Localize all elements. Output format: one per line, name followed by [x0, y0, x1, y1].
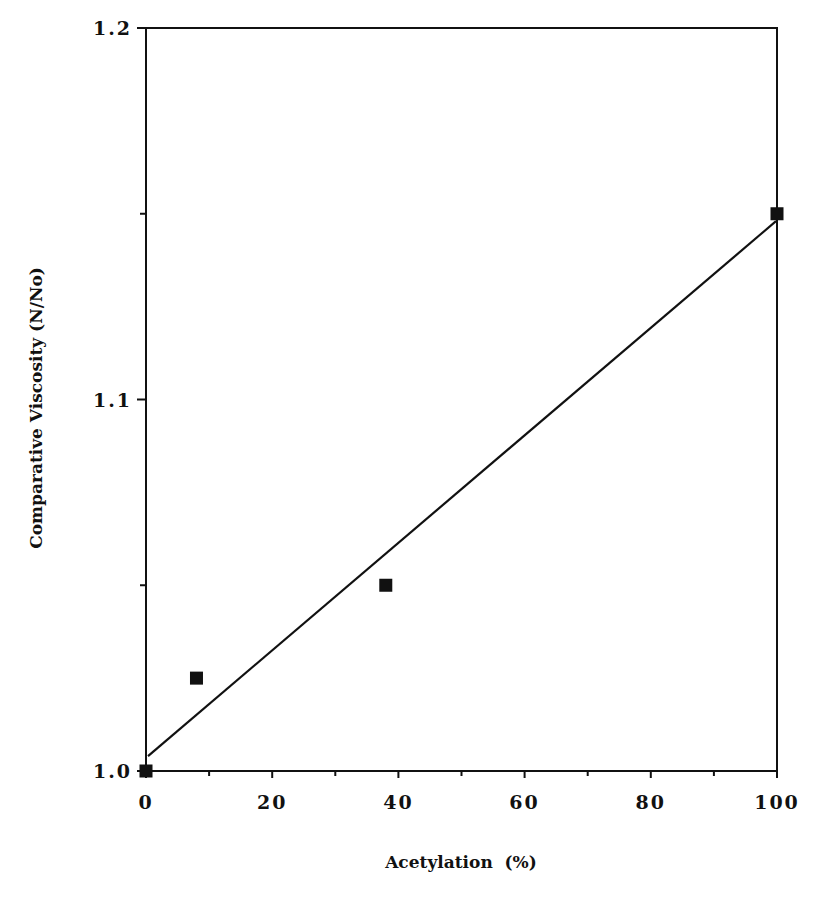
y-tick-label: 1.1	[93, 389, 132, 411]
x-tick-label: 100	[754, 791, 800, 813]
y-tick-label: 1.2	[93, 17, 132, 39]
x-axis-label: Acetylation (%)	[384, 852, 537, 872]
y-tick-label: 1.0	[93, 760, 132, 782]
x-tick-label: 20	[257, 791, 287, 813]
y-axis-ticks	[137, 28, 146, 771]
data-point-marker	[190, 672, 203, 685]
data-point-marker	[771, 207, 784, 220]
x-axis-ticks	[146, 771, 777, 778]
x-tick-label: 0	[138, 791, 153, 813]
viscosity-chart: 020406080100 1.01.11.2 Acetylation (%) C…	[0, 0, 819, 899]
x-tick-label: 40	[383, 791, 413, 813]
y-axis-label: Comparative Viscosity (N/No)	[26, 267, 46, 549]
data-point-marker	[379, 579, 392, 592]
data-point-marker	[140, 765, 153, 778]
plot-frame	[146, 28, 777, 771]
x-tick-label: 60	[509, 791, 539, 813]
x-axis-tick-labels: 020406080100	[138, 791, 799, 813]
y-axis-tick-labels: 1.01.11.2	[93, 17, 132, 782]
linear-fit-line	[148, 221, 776, 756]
x-tick-label: 80	[636, 791, 666, 813]
data-markers	[140, 207, 784, 777]
